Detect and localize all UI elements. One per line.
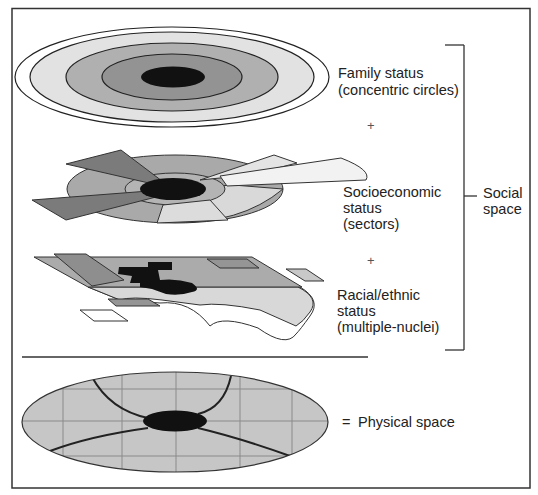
socioeconomic-core [140, 178, 206, 200]
plus-operator-2: + [367, 253, 375, 268]
family-core [141, 67, 205, 88]
social-space-label-line2: space [483, 201, 522, 217]
physical-space-label: Physical space [358, 414, 455, 430]
equals-operator: = [342, 414, 350, 430]
diagram-canvas: Family status (concentric circles) + Soc… [0, 0, 538, 495]
racial-ethnic-label: Racial/ethnic [337, 287, 420, 303]
family-status-sublabel: (concentric circles) [338, 82, 459, 98]
social-space-label-line1: Social [483, 185, 523, 201]
socioeconomic-sublabel-status: status [343, 200, 382, 216]
racial-ethnic-sublabel-status: status [337, 303, 376, 319]
family-status-concentric-circles [15, 27, 329, 127]
socioeconomic-label: Socioeconomic [343, 184, 441, 200]
racial-ethnic-sublabel-nuclei: (multiple-nuclei) [337, 319, 439, 335]
physical-core [143, 411, 207, 432]
plus-operator-1: + [367, 118, 375, 133]
family-status-label: Family status [338, 65, 423, 81]
socioeconomic-sublabel-sectors: (sectors) [343, 216, 399, 232]
